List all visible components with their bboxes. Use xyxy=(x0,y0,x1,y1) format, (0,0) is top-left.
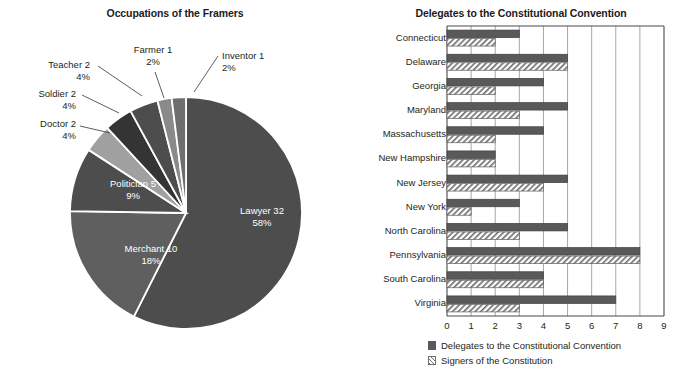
bar-connecticut-series-2 xyxy=(447,39,495,47)
bar-maryland-series-1 xyxy=(447,103,568,111)
pie-label-name: Inventor 1 xyxy=(222,50,292,62)
bar-maryland-series-2 xyxy=(447,111,519,119)
category-label-pennsylvania: Pennsylvania xyxy=(389,249,446,260)
pie-label-percent: 18% xyxy=(108,255,194,267)
bar-virginia-series-1 xyxy=(447,296,616,304)
x-tick-label-7: 7 xyxy=(606,320,626,331)
pie-leader-line-soldier xyxy=(82,95,119,113)
pie-label-percent: 58% xyxy=(222,217,302,229)
category-label-connecticut: Connecticut xyxy=(396,32,446,43)
charts-figure: Occupations of the Framers Lawyer 3258%M… xyxy=(0,0,692,390)
x-tick-label-8: 8 xyxy=(630,320,650,331)
bar-new-jersey-series-1 xyxy=(447,175,568,183)
pie-label-name: Politician 5 xyxy=(92,178,174,190)
pie-label-name: Doctor 2 xyxy=(6,118,76,130)
x-tick-label-4: 4 xyxy=(533,320,553,331)
pie-label-politician: Politician 59% xyxy=(92,178,174,201)
bar-pennsylvania-series-2 xyxy=(447,256,640,264)
pie-leader-line-farmer xyxy=(155,72,164,98)
bar-new-york-series-1 xyxy=(447,199,519,207)
pie-label-lawyer: Lawyer 3258% xyxy=(222,205,302,228)
bar-new-jersey-series-2 xyxy=(447,184,543,192)
legend-item-1[interactable]: Delegates to the Constitutional Conventi… xyxy=(428,340,621,351)
pie-label-merchant: Merchant 1018% xyxy=(108,243,194,266)
bar-south-carolina-series-2 xyxy=(447,280,543,288)
category-label-maryland: Maryland xyxy=(407,104,446,115)
bar-north-carolina-series-2 xyxy=(447,232,519,240)
category-label-south-carolina: South Carolina xyxy=(383,273,446,284)
pie-label-farmer: Farmer 12% xyxy=(122,44,184,67)
category-label-new-hampshire: New Hampshire xyxy=(378,152,446,163)
bar-pennsylvania-series-1 xyxy=(447,248,640,256)
pie-label-percent: 9% xyxy=(92,190,174,202)
bar-chart-graphic xyxy=(350,0,692,390)
pie-label-doctor: Doctor 24% xyxy=(6,118,76,141)
bar-delaware-series-2 xyxy=(447,63,568,71)
pie-label-inventor: Inventor 12% xyxy=(222,50,292,73)
legend-item-2[interactable]: Signers of the Constitution xyxy=(428,355,552,366)
pie-label-percent: 4% xyxy=(6,71,90,83)
bar-connecticut-series-1 xyxy=(447,30,519,38)
pie-label-name: Soldier 2 xyxy=(6,88,76,100)
pie-label-percent: 4% xyxy=(6,100,76,112)
pie-label-soldier: Soldier 24% xyxy=(6,88,76,111)
pie-label-percent: 2% xyxy=(222,62,292,74)
legend-label: Delegates to the Constitutional Conventi… xyxy=(441,340,621,351)
category-label-new-jersey: New Jersey xyxy=(396,177,446,188)
bar-new-york-series-2 xyxy=(447,208,471,216)
pie-leader-line-inventor xyxy=(194,56,218,92)
bar-south-carolina-series-1 xyxy=(447,272,543,280)
bar-north-carolina-series-1 xyxy=(447,223,568,231)
bar-new-hampshire-series-1 xyxy=(447,151,495,159)
x-tick-label-5: 5 xyxy=(558,320,578,331)
x-tick-label-9: 9 xyxy=(654,320,674,331)
legend-label: Signers of the Constitution xyxy=(441,355,552,366)
bar-virginia-series-2 xyxy=(447,304,519,312)
bar-chart-panel: Delegates to the Constitutional Conventi… xyxy=(350,0,692,390)
x-tick-label-6: 6 xyxy=(582,320,602,331)
pie-leader-line-teacher xyxy=(98,66,142,96)
bar-georgia-series-1 xyxy=(447,78,543,86)
category-label-georgia: Georgia xyxy=(412,80,446,91)
pie-label-teacher: Teacher 24% xyxy=(6,59,90,82)
bar-new-hampshire-series-2 xyxy=(447,159,495,167)
x-tick-label-2: 2 xyxy=(485,320,505,331)
x-tick-label-0: 0 xyxy=(437,320,457,331)
category-label-delaware: Delaware xyxy=(406,56,446,67)
bar-georgia-series-2 xyxy=(447,87,495,95)
pie-label-name: Merchant 10 xyxy=(108,243,194,255)
legend-swatch-solid-icon xyxy=(428,341,436,350)
pie-label-percent: 2% xyxy=(122,56,184,68)
bar-massachusetts-series-2 xyxy=(447,135,495,143)
bar-massachusetts-series-1 xyxy=(447,127,543,135)
x-tick-label-3: 3 xyxy=(509,320,529,331)
pie-label-name: Teacher 2 xyxy=(6,59,90,71)
legend-swatch-hatch-icon xyxy=(428,356,436,365)
category-label-virginia: Virginia xyxy=(414,297,446,308)
x-tick-label-1: 1 xyxy=(461,320,481,331)
category-label-north-carolina: North Carolina xyxy=(385,225,446,236)
pie-label-name: Lawyer 32 xyxy=(222,205,302,217)
pie-label-percent: 4% xyxy=(6,130,76,142)
pie-label-name: Farmer 1 xyxy=(122,44,184,56)
category-label-new-york: New York xyxy=(406,201,446,212)
pie-chart-panel: Occupations of the Framers Lawyer 3258%M… xyxy=(0,0,350,390)
category-label-massachusetts: Massachusetts xyxy=(383,128,446,139)
bar-delaware-series-1 xyxy=(447,54,568,62)
